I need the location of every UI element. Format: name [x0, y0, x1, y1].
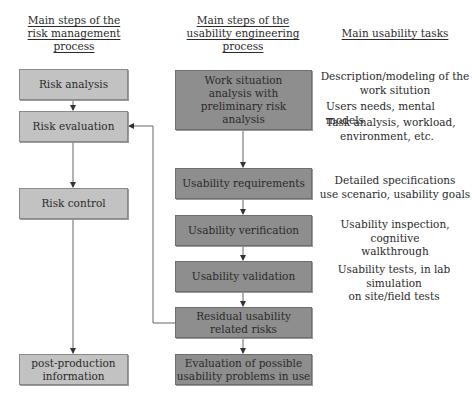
- task-line: Usability tests, in lab simulation: [316, 263, 472, 290]
- box-label: Risk analysis: [39, 78, 108, 91]
- risk-control-box: Risk control: [19, 188, 128, 219]
- box-label: analysis: [201, 113, 286, 126]
- task-description-modeling: Description/modeling of the work situtio…: [318, 70, 472, 97]
- risk-analysis-box: Risk analysis: [19, 69, 128, 100]
- box-label: preliminary risk: [201, 100, 286, 113]
- post-production-box: post-production information: [19, 354, 128, 385]
- box-label: post-production: [31, 357, 115, 370]
- task-line: on site/field tests: [316, 290, 472, 304]
- usability-requirements-box: Usability requirements: [175, 168, 312, 199]
- box-label: Usability requirements: [182, 177, 305, 190]
- box-label: Evaluation of possible: [177, 357, 311, 370]
- task-line: use scenario, usability goals: [318, 188, 472, 202]
- usability-verification-box: Usability verification: [175, 215, 312, 246]
- task-line: Usability inspection, cognitive: [318, 218, 472, 245]
- box-label: Usability verification: [188, 224, 299, 237]
- work-situation-analysis-box: Work situation analysis with preliminary…: [175, 70, 312, 130]
- box-label: usability problems in use: [177, 370, 311, 383]
- evaluation-usability-problems-box: Evaluation of possible usability problem…: [175, 354, 312, 385]
- usability-validation-box: Usability validation: [175, 261, 312, 292]
- box-label: related risks: [196, 323, 291, 336]
- task-detailed-specifications: Detailed specifications use scenario, us…: [318, 174, 472, 201]
- task-usability-inspection: Usability inspection, cognitive walkthro…: [318, 218, 472, 259]
- box-label: Risk evaluation: [33, 120, 115, 133]
- residual-risks-box: Residual usability related risks: [175, 307, 312, 338]
- box-label: Usability validation: [192, 270, 295, 283]
- box-label: information: [31, 370, 115, 383]
- task-line: walkthrough: [318, 245, 472, 259]
- task-usability-tests: Usability tests, in lab simulation on si…: [316, 263, 472, 304]
- box-label: analysis with: [201, 87, 286, 100]
- task-line: environment, etc.: [326, 130, 472, 144]
- task-line: work sitution: [318, 84, 472, 98]
- box-label: Residual usability: [196, 310, 291, 323]
- box-label: Work situation: [201, 74, 286, 87]
- task-line: Description/modeling of the: [318, 70, 472, 84]
- risk-evaluation-box: Risk evaluation: [19, 111, 128, 142]
- task-analysis-workload: Task analysis, workload, environment, et…: [318, 116, 472, 143]
- task-line: Detailed specifications: [318, 174, 472, 188]
- box-label: Risk control: [41, 197, 105, 210]
- task-line: Task analysis, workload,: [326, 116, 472, 130]
